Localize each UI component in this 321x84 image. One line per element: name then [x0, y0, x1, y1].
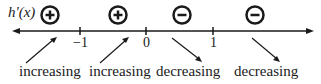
interval-behavior-label: decreasing — [156, 63, 220, 80]
minus-circle-icon — [247, 7, 264, 24]
arrow-down-right-icon — [172, 38, 202, 62]
plus-circle-icon — [110, 7, 127, 24]
tick-label: −1 — [73, 35, 88, 51]
interval-behavior-label: decreasing — [234, 63, 298, 80]
tick-label: 1 — [210, 35, 217, 51]
minus-circle-icon — [174, 7, 191, 24]
interval-behavior-label: increasing — [19, 63, 81, 80]
arrow-up-right-icon — [100, 37, 129, 63]
plus-circle-icon — [42, 7, 59, 24]
right-arrowhead-icon — [306, 28, 314, 34]
tick-label: 0 — [143, 35, 150, 51]
function-label: h'(x) — [8, 4, 35, 21]
arrow-down-right-icon — [252, 38, 280, 62]
interval-behavior-label: increasing — [89, 63, 151, 80]
arrow-up-right-icon — [26, 37, 57, 63]
left-arrowhead-icon — [12, 28, 20, 34]
